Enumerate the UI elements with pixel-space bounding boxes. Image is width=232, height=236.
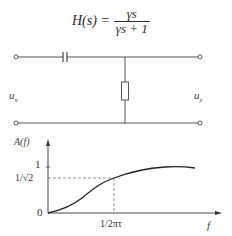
y-tick-label-inv-sqrt2: 1/√2 (15, 172, 33, 183)
y-tick-label-1: 1 (35, 158, 41, 170)
output-terminal-bottom (198, 121, 202, 125)
y-axis-arrow-icon (46, 139, 50, 146)
x-tick-label-cutoff: 1/2πτ (100, 218, 122, 229)
output-terminal-top (198, 55, 202, 59)
input-terminal-top (14, 55, 18, 59)
y-tick-label-0: 0 (37, 206, 43, 218)
x-axis-arrow-icon (215, 211, 222, 215)
response-curve (48, 167, 195, 213)
resistor (122, 82, 129, 100)
input-voltage-label: ux (9, 89, 18, 104)
circuit-and-graph (0, 0, 232, 236)
x-axis-label: f (207, 219, 210, 231)
input-terminal-bottom (14, 121, 18, 125)
y-axis-label: A(f) (14, 136, 30, 147)
output-voltage-label: uy (194, 89, 203, 104)
circuit-diagram (14, 52, 202, 125)
frequency-response-graph (46, 139, 222, 215)
